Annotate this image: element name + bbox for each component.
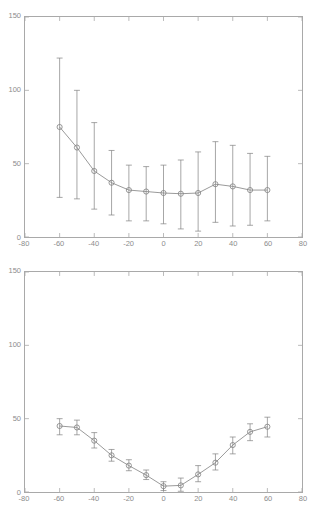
y-tick-label: 50 [0, 160, 21, 168]
x-tick-label: 40 [219, 495, 247, 503]
x-tick-label: 80 [289, 240, 317, 248]
y-tick-label: 150 [0, 267, 21, 275]
x-tick-label: -20 [115, 495, 143, 503]
x-tick-label: -60 [45, 240, 73, 248]
y-tick-label: 0 [0, 489, 21, 497]
y-tick-label: 150 [0, 12, 21, 20]
x-tick-label: 80 [289, 495, 317, 503]
x-tick-label: -20 [115, 240, 143, 248]
x-tick-label: 0 [150, 240, 178, 248]
x-tick-label: 60 [254, 495, 282, 503]
x-tick-label: 20 [184, 495, 212, 503]
series-line [60, 426, 268, 486]
y-tick-label: 100 [0, 341, 21, 349]
y-tick-label: 50 [0, 415, 21, 423]
x-tick-label: -40 [80, 240, 108, 248]
x-tick-label: 20 [184, 240, 212, 248]
error-bar [91, 123, 97, 210]
x-tick-label: 0 [150, 495, 178, 503]
y-tick-label: 100 [0, 86, 21, 94]
plot-svg-top [25, 17, 302, 237]
x-tick-label: -40 [80, 495, 108, 503]
chart-panel-top: -80-60-40-20020406080050100150 [0, 0, 320, 259]
x-tick-label: -60 [45, 495, 73, 503]
chart-panel-bottom: -80-60-40-20020406080050100150 [0, 260, 320, 519]
y-tick-label: 0 [0, 234, 21, 242]
plot-area-bottom [24, 271, 303, 493]
plot-svg-bottom [25, 272, 302, 492]
x-tick-label: 60 [254, 240, 282, 248]
plot-area-top [24, 16, 303, 238]
figure-canvas: -80-60-40-20020406080050100150 -80-60-40… [0, 0, 320, 519]
x-tick-label: 40 [219, 240, 247, 248]
